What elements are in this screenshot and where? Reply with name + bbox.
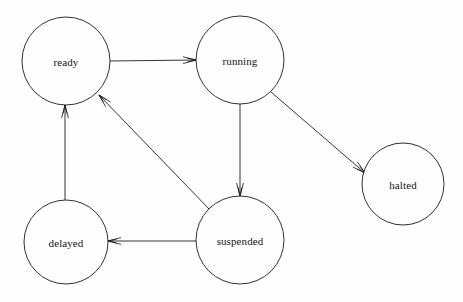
transition-running-to-halted [271, 92, 365, 173]
state-label: halted [389, 179, 417, 191]
states-layer: readyrunninghaltedsuspendeddelayed [22, 16, 444, 284]
transition-line [271, 92, 365, 173]
transition-line [110, 60, 196, 61]
state-label: running [223, 55, 258, 67]
transition-suspended-to-ready [99, 95, 211, 211]
state-label: ready [54, 56, 79, 68]
state-node-delayed[interactable]: delayed [24, 200, 108, 284]
transition-suspended-to-delayed [108, 238, 196, 245]
transition-ready-to-running [110, 57, 196, 64]
state-node-suspended[interactable]: suspended [196, 196, 284, 284]
transition-line [99, 95, 211, 211]
state-node-running[interactable]: running [196, 16, 284, 104]
state-diagram-canvas: readyrunninghaltedsuspendeddelayed [0, 0, 463, 302]
state-diagram-svg: readyrunninghaltedsuspendeddelayed [0, 0, 463, 302]
transition-running-to-suspended [237, 104, 244, 196]
state-label: delayed [49, 237, 84, 249]
state-label: suspended [217, 235, 264, 247]
state-node-halted[interactable]: halted [362, 143, 444, 225]
state-node-ready[interactable]: ready [22, 17, 110, 105]
transition-delayed-to-ready [62, 105, 69, 200]
